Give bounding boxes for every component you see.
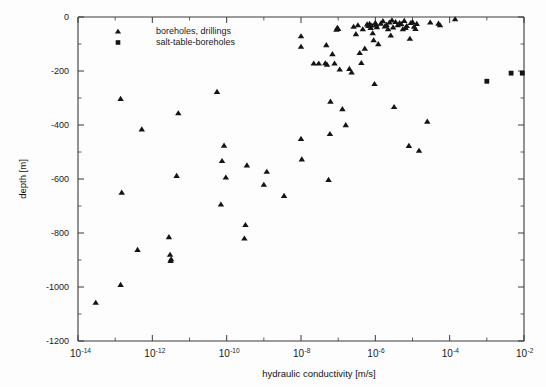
svg-text:10: 10 <box>367 348 379 359</box>
svg-text:10: 10 <box>219 348 231 359</box>
data-point-triangle <box>298 136 304 141</box>
data-point-triangle <box>242 222 248 227</box>
data-point-triangle <box>370 37 376 42</box>
data-point-triangle <box>139 126 145 131</box>
data-point-triangle <box>343 122 349 127</box>
svg-text:-14: -14 <box>82 347 92 354</box>
data-point-triangle <box>219 158 225 163</box>
x-tick-label: 10-6 <box>367 347 385 360</box>
data-point-triangle <box>118 190 124 195</box>
data-point-triangle <box>391 104 397 109</box>
data-point-triangle <box>336 66 342 71</box>
data-point-triangle <box>218 201 224 206</box>
y-tick-label: -400 <box>51 120 69 130</box>
y-tick-label: -600 <box>51 174 69 184</box>
data-point-triangle <box>380 18 386 23</box>
data-point-triangle <box>316 60 322 65</box>
y-tick-label: -800 <box>51 228 69 238</box>
data-point-triangle <box>323 42 329 47</box>
x-tick-label: 10-4 <box>442 347 460 360</box>
data-point-triangle <box>371 81 377 86</box>
svg-text:10: 10 <box>442 348 454 359</box>
data-point-triangle <box>117 96 123 101</box>
x-tick-label: 10-14 <box>70 347 91 360</box>
data-point-triangle <box>401 18 407 23</box>
data-point-triangle <box>221 143 227 148</box>
data-point-triangle <box>327 131 333 136</box>
data-point-triangle <box>311 60 317 65</box>
data-point-triangle <box>223 174 229 179</box>
data-point-triangle <box>355 22 361 27</box>
data-point-triangle <box>214 89 220 94</box>
data-point-triangle <box>406 143 412 148</box>
svg-text:10: 10 <box>516 348 528 359</box>
data-point-triangle <box>299 156 305 161</box>
data-point-triangle <box>298 44 304 49</box>
data-point-triangle <box>416 148 422 153</box>
data-point-triangle <box>298 33 304 38</box>
series-2 <box>484 71 524 84</box>
data-point-triangle <box>175 110 181 115</box>
x-tick-label: 10-10 <box>219 347 240 360</box>
svg-text:-6: -6 <box>379 347 385 354</box>
data-point-triangle <box>281 193 287 198</box>
y-axis-title: depth [m] <box>17 159 28 199</box>
scatter-plot: 10-1410-1210-1010-810-610-410-2 0-200-40… <box>0 0 546 387</box>
svg-text:-2: -2 <box>528 347 534 354</box>
x-tick-label: 10-8 <box>293 347 311 360</box>
data-point-triangle <box>424 119 430 124</box>
data-point-triangle <box>241 235 247 240</box>
data-point-triangle <box>167 252 173 257</box>
axis-ticks <box>78 17 524 341</box>
y-tick-label: -1000 <box>46 282 69 292</box>
data-point-square <box>484 79 489 84</box>
data-point-triangle <box>329 51 335 56</box>
data-point-triangle <box>407 36 413 41</box>
x-tick-label: 10-2 <box>516 347 534 360</box>
data-point-triangle <box>327 99 333 104</box>
data-point-triangle <box>388 32 394 37</box>
data-point-triangle <box>173 173 179 178</box>
data-point-triangle <box>261 182 267 187</box>
legend-square-icon <box>116 40 121 45</box>
y-tick-label: 0 <box>64 12 69 22</box>
data-point-triangle <box>325 177 331 182</box>
svg-text:10: 10 <box>293 348 305 359</box>
data-points <box>93 16 525 305</box>
data-point-triangle <box>362 46 368 51</box>
data-point-triangle <box>353 31 359 36</box>
data-point-triangle <box>117 282 123 287</box>
y-tick-label: -1200 <box>46 336 69 346</box>
svg-text:-10: -10 <box>230 347 240 354</box>
legend-label: salt-table-boreholes <box>156 37 236 47</box>
svg-text:-8: -8 <box>305 347 311 354</box>
series-1 <box>93 16 459 305</box>
data-point-square <box>520 71 525 76</box>
axes-group <box>78 17 524 341</box>
data-point-triangle <box>339 106 345 111</box>
y-tick-labels: 0-200-400-600-800-1000-1200 <box>46 12 69 346</box>
y-tick-label: -200 <box>51 66 69 76</box>
data-point-square <box>509 71 514 76</box>
x-axis-title: hydraulic conductivity [m/s] <box>262 368 376 379</box>
svg-text:-4: -4 <box>453 347 459 354</box>
data-point-triangle <box>358 60 364 65</box>
data-point-triangle <box>264 169 270 174</box>
legend-entry: boreholes, drillings <box>115 26 232 36</box>
data-point-triangle <box>93 300 99 305</box>
data-point-triangle <box>244 162 250 167</box>
legend-label: boreholes, drillings <box>156 26 232 36</box>
plot-legend: boreholes, drillingssalt-table-boreholes <box>115 26 236 47</box>
svg-text:-12: -12 <box>156 347 166 354</box>
legend-entry: salt-table-boreholes <box>116 37 236 47</box>
data-point-triangle <box>166 234 172 239</box>
data-point-triangle <box>134 247 140 252</box>
x-tick-label: 10-12 <box>144 347 165 360</box>
axis-titles: hydraulic conductivity [m/s]depth [m] <box>17 159 376 379</box>
svg-text:10: 10 <box>144 348 156 359</box>
data-point-triangle <box>331 60 337 65</box>
svg-text:10: 10 <box>70 348 82 359</box>
legend-triangle-icon <box>115 29 121 34</box>
figure-panel: 10-1410-1210-1010-810-610-410-2 0-200-40… <box>0 0 546 387</box>
data-point-triangle <box>369 30 375 35</box>
